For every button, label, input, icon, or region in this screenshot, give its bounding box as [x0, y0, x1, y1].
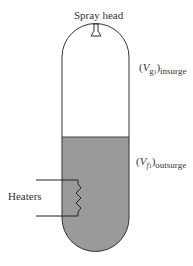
heaters-label: Heaters — [8, 190, 42, 202]
spray-head-label: Spray head — [74, 9, 123, 21]
liquid-region — [62, 137, 129, 251]
spray-head-icon — [91, 24, 101, 36]
liquid-outsurge-label: (Vf1)outsurge — [136, 155, 186, 170]
outer-subscript: outsurge — [155, 160, 186, 170]
outer-subscript: insurge — [160, 66, 186, 76]
vapor-insurge-label: (Vg1)insurge — [139, 61, 186, 76]
pressurizer-diagram — [0, 0, 193, 266]
